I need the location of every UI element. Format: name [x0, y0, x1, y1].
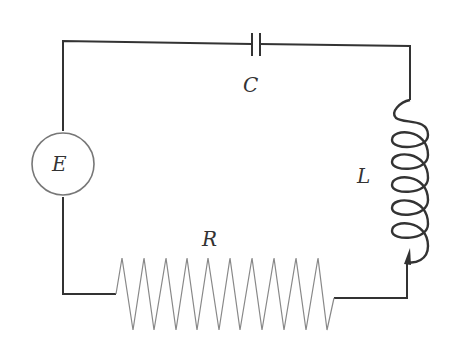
wire-left-bottom — [63, 197, 116, 294]
wire-bottom-right — [334, 260, 407, 298]
wire-top-left — [63, 41, 252, 131]
wire-top-right — [260, 44, 410, 100]
source-label: E — [51, 152, 67, 176]
capacitor — [252, 33, 260, 56]
inductor-coil — [392, 100, 428, 262]
capacitor-label: C — [243, 73, 258, 97]
resistor-zigzag — [116, 258, 334, 330]
resistor-label: R — [201, 227, 217, 251]
inductor-arrowhead — [404, 248, 411, 265]
rlc-circuit-diagram: C E R L — [0, 0, 458, 352]
inductor-label: L — [356, 164, 370, 188]
